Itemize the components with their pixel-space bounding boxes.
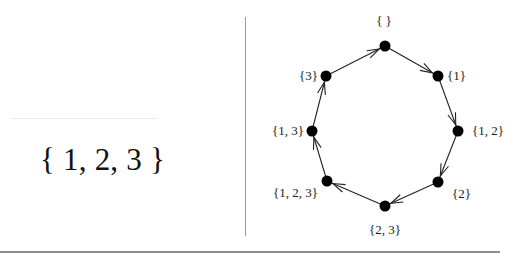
arrowhead-icon [367, 49, 380, 58]
edge-empty-s1 [385, 46, 438, 76]
node-empty [380, 41, 391, 52]
node-s23 [380, 201, 391, 212]
node-label-s12: {1, 2} [472, 123, 504, 138]
node-label-s123: {1, 2, 3} [273, 185, 318, 200]
node-label-s13: {1, 3} [272, 123, 304, 138]
node-s13 [307, 126, 318, 137]
edge-s3-empty [326, 46, 385, 76]
edge-s1-s12 [438, 76, 458, 131]
node-s1 [433, 71, 444, 82]
edge-s23-s123 [327, 181, 385, 206]
node-s123 [322, 176, 333, 187]
arrowhead-icon [420, 63, 432, 72]
node-s12 [453, 126, 464, 137]
edge-s13-s3 [312, 76, 326, 131]
node-label-s1: {1} [447, 68, 466, 83]
node-s2 [433, 177, 444, 188]
edge-s2-s23 [385, 182, 438, 206]
subset-cycle-graph: { }{1}{1, 2}{2}{2, 3}{1, 2, 3}{1, 3}{3} [0, 0, 528, 268]
node-label-empty: { } [376, 13, 392, 28]
node-s3 [321, 71, 332, 82]
node-label-s3: {3} [299, 68, 318, 83]
node-label-s23: {2, 3} [369, 222, 401, 237]
graph-nodes [307, 41, 464, 212]
node-label-s2: {2} [452, 186, 471, 201]
